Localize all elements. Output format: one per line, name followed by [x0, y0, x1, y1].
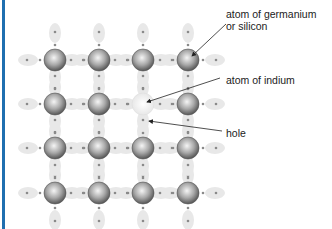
- germanium-atom: [88, 93, 110, 115]
- germanium-atom: [88, 137, 110, 159]
- germanium-atom: [44, 49, 66, 71]
- germanium-atom: [88, 182, 110, 204]
- germanium-atom: [44, 93, 66, 115]
- germanium-atom: [177, 137, 199, 159]
- germanium-label-line1: atom of germanium: [226, 8, 316, 20]
- lattice-diagram: [0, 0, 332, 229]
- germanium-atom: [44, 182, 66, 204]
- germanium-atom: [132, 49, 154, 71]
- indium-atom: [132, 93, 154, 115]
- germanium-atom: [132, 182, 154, 204]
- germanium-label: atom of germanium or silicon: [226, 8, 316, 32]
- germanium-arrow: [192, 24, 226, 56]
- germanium-atom: [177, 93, 199, 115]
- germanium-atom: [88, 49, 110, 71]
- germanium-atom: [44, 137, 66, 159]
- germanium-atom: [177, 182, 199, 204]
- hole-label: hole: [226, 127, 246, 139]
- germanium-atom: [132, 137, 154, 159]
- germanium-label-line2: or silicon: [226, 20, 316, 32]
- indium-label: atom of indium: [226, 74, 295, 86]
